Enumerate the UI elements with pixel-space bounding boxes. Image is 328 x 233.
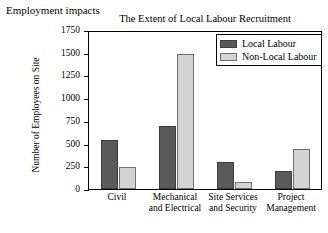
bar-local-labour <box>101 140 118 189</box>
chart-title: The Extent of Local Labour Recruitment <box>88 12 322 25</box>
figure-caption: Employment impacts <box>6 4 100 17</box>
bar-local-labour <box>159 126 176 189</box>
y-tick-label: 0 <box>40 185 80 194</box>
x-axis-label-line: Management <box>254 203 328 214</box>
legend-label-non-local-labour: Non-Local Labour <box>242 51 317 62</box>
non-local-labour-swatch <box>220 53 237 61</box>
bar-non-local-labour <box>119 167 136 189</box>
legend-item-non-local-labour: Non-Local Labour <box>220 50 317 63</box>
x-axis-label-line: Project <box>254 192 328 203</box>
bar-non-local-labour <box>293 149 310 189</box>
y-tick-label: 1750 <box>40 26 80 35</box>
x-axis-label: ProjectManagement <box>254 192 328 214</box>
y-tick-label: 750 <box>40 117 80 126</box>
legend-item-local-labour: Local Labour <box>220 37 317 50</box>
y-tick-label: 500 <box>40 140 80 149</box>
local-labour-swatch <box>220 40 237 48</box>
legend-label-local-labour: Local Labour <box>242 38 296 49</box>
chart-legend: Local Labour Non-Local Labour <box>216 34 322 66</box>
y-tick-label: 1000 <box>40 94 80 103</box>
y-tick-label: 1250 <box>40 71 80 80</box>
bar-local-labour <box>275 171 292 189</box>
bar-non-local-labour <box>235 182 252 189</box>
y-tick-label: 250 <box>40 162 80 171</box>
x-axis-labels: CivilMechanicaland ElectricalSite Servic… <box>88 192 322 232</box>
bar-non-local-labour <box>177 54 194 189</box>
bar-group <box>89 32 147 189</box>
chart-figure: Employment impacts The Extent of Local L… <box>0 0 328 233</box>
y-tick-mark <box>84 190 89 191</box>
bar-group <box>147 32 205 189</box>
y-tick-label: 1500 <box>40 49 80 58</box>
bar-local-labour <box>217 162 234 189</box>
